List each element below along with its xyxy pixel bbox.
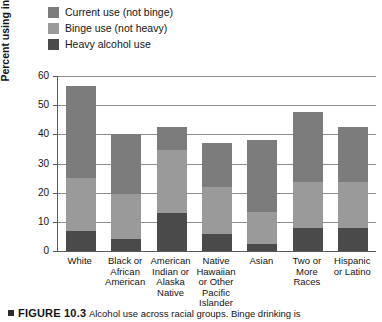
y-axis-tick <box>53 76 58 77</box>
caption-marker-icon <box>8 310 14 316</box>
legend-label-current-use: Current use (not binge) <box>65 7 173 18</box>
y-axis-tick <box>53 222 58 223</box>
legend-label-binge-use: Binge use (not heavy) <box>65 23 167 34</box>
bar-segment <box>293 112 323 182</box>
x-axis-tick-label-line: White <box>57 256 102 267</box>
x-axis-tick-label-line: Hispanic <box>330 256 375 267</box>
x-axis-tick-label-line: Alaska <box>148 277 193 288</box>
bar-segment <box>293 182 323 227</box>
x-axis-tick-label-line: Native <box>193 256 238 267</box>
x-axis-tick-label-line: Islander <box>193 298 238 309</box>
bar-segment <box>111 239 141 251</box>
bar-segment <box>338 182 368 227</box>
figure-caption: FIGURE 10.3 Alcohol use across racial gr… <box>8 308 374 319</box>
caption-figure-number: FIGURE 10.3 <box>18 307 86 319</box>
bar-segment <box>202 234 232 252</box>
y-axis-tick <box>53 251 58 252</box>
legend-item-current-use: Current use (not binge) <box>48 5 173 19</box>
caption-text: Alcohol use across racial groups. Binge … <box>89 308 301 319</box>
legend-swatch-current-use <box>48 7 59 18</box>
figure-alcohol-use-across-racial-groups: Current use (not binge) Binge use (not h… <box>0 0 382 322</box>
bar-segment <box>247 140 277 211</box>
gridline <box>58 105 376 106</box>
plot-area <box>57 76 376 252</box>
y-axis-tick-label: 10 <box>25 217 49 227</box>
y-axis-tick <box>53 193 58 194</box>
bar-group <box>157 127 187 251</box>
bar-segment <box>66 86 96 178</box>
bar-group <box>293 112 323 251</box>
legend-label-heavy-alcohol-use: Heavy alcohol use <box>65 39 151 50</box>
bar-segment <box>157 127 187 150</box>
y-axis-title: Percent using in past month <box>0 0 11 104</box>
chart-legend: Current use (not binge) Binge use (not h… <box>48 5 173 53</box>
x-axis-tick-label: Two orMoreRaces <box>284 256 329 288</box>
y-axis-tick <box>53 164 58 165</box>
x-axis-tick-label: AmericanIndian orAlaskaNative <box>148 256 193 298</box>
bar-segment <box>293 228 323 251</box>
bar-group <box>66 86 96 251</box>
x-axis-tick-label-line: Races <box>284 277 329 288</box>
legend-item-binge-use: Binge use (not heavy) <box>48 21 173 35</box>
y-axis-tick-label: 40 <box>25 129 49 139</box>
gridline <box>58 134 376 135</box>
x-axis-tick-label-line: American <box>102 277 147 288</box>
x-axis-tick-label-line: or Other <box>193 277 238 288</box>
y-axis-tick-label: 20 <box>25 188 49 198</box>
y-axis-tick <box>53 134 58 135</box>
gridline <box>58 76 376 77</box>
x-axis-tick-label-line: Two or <box>284 256 329 267</box>
y-axis-tick <box>53 105 58 106</box>
legend-swatch-heavy-alcohol-use <box>48 39 59 50</box>
bar-segment <box>202 187 232 234</box>
bar-segment <box>247 244 277 251</box>
y-axis-tick-label: 60 <box>25 71 49 81</box>
bar-segment <box>202 143 232 187</box>
bar-segment <box>247 212 277 244</box>
bar-segment <box>111 194 141 239</box>
bar-segment <box>338 228 368 251</box>
y-axis-tick-label: 50 <box>25 100 49 110</box>
legend-swatch-binge-use <box>48 23 59 34</box>
bar-group <box>111 134 141 251</box>
x-axis-tick-label-line: or Latino <box>330 267 375 278</box>
bar-group <box>202 143 232 251</box>
x-axis-tick-label: NativeHawaiianor OtherPacificIslander <box>193 256 238 309</box>
bar-segment <box>66 178 96 231</box>
bar-segment <box>66 231 96 251</box>
bar-group <box>338 127 368 251</box>
x-axis-tick-label: White <box>57 256 102 267</box>
bar-segment <box>157 150 187 213</box>
bar-group <box>247 140 277 251</box>
x-axis-tick-label: Hispanicor Latino <box>330 256 375 277</box>
bar-segment <box>157 213 187 251</box>
x-axis-tick-label: Asian <box>239 256 284 267</box>
y-axis-tick-label: 0 <box>25 246 49 256</box>
bar-segment <box>111 134 141 194</box>
bar-segment <box>338 127 368 182</box>
y-axis-tick-label: 30 <box>25 159 49 169</box>
x-axis-tick-label-line: Asian <box>239 256 284 267</box>
x-axis-tick-label-line: American <box>148 256 193 267</box>
x-axis-tick-label-line: Black or <box>102 256 147 267</box>
x-axis-tick-label-line: Native <box>148 288 193 299</box>
x-axis-tick-label: Black orAfricanAmerican <box>102 256 147 288</box>
legend-item-heavy-alcohol-use: Heavy alcohol use <box>48 37 173 51</box>
